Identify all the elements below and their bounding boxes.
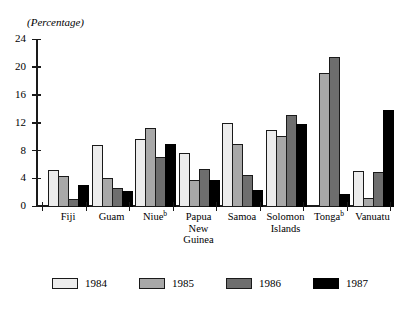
- legend-item[interactable]: 1984: [52, 276, 107, 290]
- bar: [339, 194, 350, 207]
- x-axis-tick: [129, 202, 130, 211]
- y-axis-tick: 8: [32, 150, 41, 151]
- plot-area: 04812162024: [36, 40, 388, 207]
- legend-item[interactable]: 1985: [139, 276, 194, 290]
- bar-group: [309, 40, 357, 207]
- legend-label: 1985: [172, 278, 194, 289]
- y-axis-tick-label: 4: [21, 173, 27, 184]
- x-axis-category-label: Vanuatu: [333, 211, 396, 223]
- legend-swatch: [52, 278, 78, 289]
- legend-item[interactable]: 1986: [226, 276, 281, 290]
- bar-group: [135, 40, 183, 207]
- legend-swatch: [313, 278, 339, 289]
- x-axis-category-label-line: Islands: [246, 223, 326, 235]
- x-axis-tick: [86, 202, 87, 211]
- bar: [78, 185, 89, 207]
- x-axis-category-label-line: Guinea: [159, 234, 239, 246]
- bar: [252, 190, 263, 207]
- bar-chart: (Percentage) 04812162024 198419851986198…: [0, 0, 396, 318]
- bar: [329, 57, 340, 207]
- bar-group: [222, 40, 270, 207]
- x-axis-tick: [173, 202, 174, 211]
- x-axis-tick: [216, 202, 217, 211]
- y-axis-tick: 20: [32, 66, 41, 67]
- x-axis-tick: [260, 202, 261, 211]
- y-axis-tick-label: 24: [15, 34, 26, 45]
- x-axis-category-label-line: Vanuatu: [333, 211, 396, 223]
- y-axis-line: [36, 40, 38, 207]
- bar-group: [92, 40, 140, 207]
- x-axis-category-label-line: New: [159, 223, 239, 235]
- y-axis-tick-label: 0: [21, 201, 27, 212]
- bar: [165, 144, 176, 207]
- x-axis-tick: [42, 202, 43, 211]
- y-axis-tick: 0: [32, 206, 41, 207]
- bar: [383, 110, 394, 207]
- chart-legend: 1984198519861987: [52, 276, 372, 296]
- bar: [209, 180, 220, 207]
- x-axis-tick: [347, 202, 348, 211]
- x-axis-tick: [390, 202, 391, 211]
- y-axis-tick-label: 12: [15, 117, 26, 128]
- x-axis-tick: [303, 202, 304, 211]
- legend-label: 1987: [346, 278, 368, 289]
- y-axis-tick-label: 8: [21, 145, 27, 156]
- legend-item[interactable]: 1987: [313, 276, 368, 290]
- bar-group: [48, 40, 96, 207]
- legend-swatch: [139, 278, 165, 289]
- bar: [122, 191, 133, 207]
- y-axis-tick: 16: [32, 94, 41, 95]
- y-axis-tick-label: 20: [15, 61, 26, 72]
- y-axis-tick: 24: [32, 39, 41, 40]
- y-axis-tick: 12: [32, 122, 41, 123]
- y-axis-unit-caption: (Percentage): [27, 16, 84, 28]
- bar: [296, 124, 307, 208]
- bar-group: [179, 40, 227, 207]
- bar-group: [266, 40, 314, 207]
- legend-swatch: [226, 278, 252, 289]
- y-axis-tick-label: 16: [15, 89, 26, 100]
- bar-group: [353, 40, 396, 207]
- legend-label: 1984: [85, 278, 107, 289]
- y-axis-tick: 4: [32, 178, 41, 179]
- legend-label: 1986: [259, 278, 281, 289]
